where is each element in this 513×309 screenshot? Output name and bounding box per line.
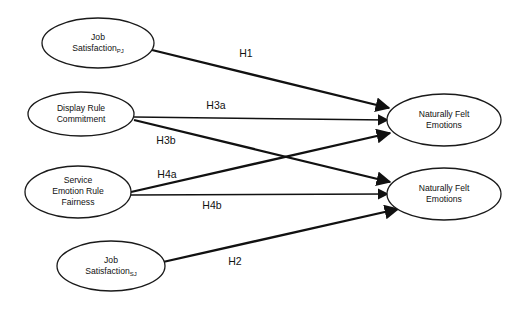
- path-arrow-h4b: [131, 194, 388, 195]
- node-label-subscript-job-satisfaction-sj: SJ: [130, 270, 137, 276]
- path-label-h2: H2: [228, 255, 242, 267]
- path-model-diagram: JobSatisfactionPJDisplay RuleCommitmentS…: [0, 0, 513, 309]
- node-label-subscript-job-satisfaction-pj: PJ: [117, 47, 124, 53]
- node-label-display-rule-commitment-line2: Commitment: [57, 114, 106, 124]
- node-label-job-satisfaction-sj-line2: SatisfactionSJ: [85, 266, 136, 277]
- paths-layer: [131, 50, 398, 262]
- node-label-job-satisfaction-pj-line1: Job: [91, 32, 105, 42]
- node-naturally-felt-emotions-bottom: Naturally FeltEmotions: [387, 168, 501, 220]
- node-job-satisfaction-pj: JobSatisfactionPJ: [42, 18, 154, 68]
- path-label-h4a: H4a: [157, 168, 176, 180]
- node-display-rule-commitment: Display RuleCommitment: [28, 92, 134, 136]
- node-label-job-satisfaction-pj-line2: SatisfactionPJ: [72, 43, 123, 54]
- path-label-h4b: H4b: [202, 199, 221, 211]
- path-arrow-h1: [152, 50, 389, 108]
- node-label-naturally-felt-emotions-top-line2: Emotions: [426, 120, 462, 130]
- node-label-naturally-felt-emotions-bottom-line2: Emotions: [426, 194, 462, 204]
- path-label-h1: H1: [239, 47, 253, 59]
- node-label-service-emotion-rule-fairness-line1: Service: [64, 175, 93, 185]
- node-service-emotion-rule-fairness: ServiceEmotion RuleFairness: [25, 166, 131, 218]
- path-label-h3b: H3b: [156, 134, 175, 146]
- node-label-service-emotion-rule-fairness-line2: Emotion Rule: [52, 186, 104, 196]
- node-naturally-felt-emotions-top: Naturally FeltEmotions: [387, 94, 501, 146]
- node-label-job-satisfaction-sj-line1: Job: [104, 255, 118, 265]
- node-label-naturally-felt-emotions-top-line1: Naturally Felt: [419, 109, 470, 119]
- node-job-satisfaction-sj: JobSatisfactionSJ: [57, 241, 165, 291]
- node-label-naturally-felt-emotions-bottom-line1: Naturally Felt: [419, 183, 470, 193]
- node-label-display-rule-commitment-line1: Display Rule: [57, 103, 105, 113]
- path-arrow-h2: [163, 209, 398, 262]
- path-arrow-h3a: [134, 117, 388, 120]
- node-label-service-emotion-rule-fairness-line3: Fairness: [62, 197, 95, 207]
- path-labels-layer: H1H3aH3bH4aH4bH2: [156, 47, 252, 267]
- nodes-layer: JobSatisfactionPJDisplay RuleCommitmentS…: [25, 18, 501, 291]
- path-label-h3a: H3a: [206, 99, 225, 111]
- diagram-canvas: JobSatisfactionPJDisplay RuleCommitmentS…: [0, 0, 513, 309]
